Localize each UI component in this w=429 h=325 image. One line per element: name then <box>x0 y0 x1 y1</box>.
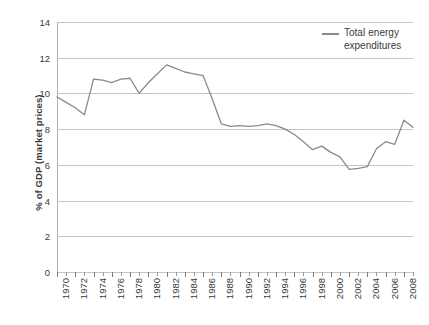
x-tick-mark-1981 <box>157 272 158 276</box>
x-tick-mark-2009 <box>413 272 414 276</box>
x-tick-mark-1998 <box>313 272 314 277</box>
x-tick-mark-1988 <box>221 272 222 277</box>
x-tick-label-2002: 2002 <box>353 278 363 299</box>
x-tick-mark-1989 <box>230 272 231 276</box>
x-tick-label-1982: 1982 <box>171 278 181 299</box>
series-total-energy-expenditures <box>57 22 413 272</box>
x-tick-mark-1973 <box>84 272 85 276</box>
chart-legend: Total energy expenditures <box>322 27 429 52</box>
x-tick-mark-1971 <box>66 272 67 276</box>
x-tick-label-1972: 1972 <box>79 278 89 299</box>
y-tick-label-14: 14 <box>26 17 50 28</box>
energy-expenditure-line-chart: % of GDP (market prices) 14121086420 197… <box>0 0 429 325</box>
x-tick-mark-1986 <box>203 272 204 277</box>
x-tick-mark-1994 <box>276 272 277 277</box>
x-tick-mark-2002 <box>349 272 350 277</box>
x-tick-mark-1984 <box>185 272 186 277</box>
x-tick-label-1992: 1992 <box>262 278 272 299</box>
x-tick-mark-1983 <box>176 272 177 276</box>
x-tick-label-1984: 1984 <box>189 278 199 299</box>
x-tick-mark-2006 <box>386 272 387 277</box>
y-axis-tick-labels: 14121086420 <box>26 0 50 325</box>
x-tick-label-1974: 1974 <box>98 278 108 299</box>
x-tick-mark-1979 <box>139 272 140 276</box>
x-axis-tick-marks <box>57 272 413 277</box>
x-tick-label-1998: 1998 <box>317 278 327 299</box>
plot-area <box>57 22 413 272</box>
x-tick-mark-1987 <box>212 272 213 276</box>
x-tick-mark-1990 <box>240 272 241 277</box>
x-tick-label-2008: 2008 <box>408 278 418 299</box>
x-tick-mark-1978 <box>130 272 131 277</box>
x-tick-mark-1972 <box>75 272 76 277</box>
x-tick-label-1970: 1970 <box>61 278 71 299</box>
x-tick-label-1988: 1988 <box>225 278 235 299</box>
x-tick-label-1986: 1986 <box>207 278 217 299</box>
x-tick-mark-2007 <box>395 272 396 276</box>
x-tick-mark-1974 <box>94 272 95 277</box>
x-tick-mark-1976 <box>112 272 113 277</box>
x-tick-mark-1993 <box>267 272 268 276</box>
x-tick-mark-1992 <box>258 272 259 277</box>
x-tick-mark-1977 <box>121 272 122 276</box>
x-tick-mark-1995 <box>285 272 286 276</box>
x-axis-tick-labels: 1970197219741976197819801982198419861988… <box>57 278 413 324</box>
x-tick-label-1978: 1978 <box>134 278 144 299</box>
x-tick-mark-1980 <box>148 272 149 277</box>
x-tick-mark-2001 <box>340 272 341 276</box>
x-tick-label-2000: 2000 <box>335 278 345 299</box>
legend-label: Total energy expenditures <box>344 27 429 52</box>
x-tick-mark-1982 <box>167 272 168 277</box>
x-tick-mark-2003 <box>358 272 359 276</box>
x-tick-label-1990: 1990 <box>244 278 254 299</box>
x-tick-mark-1991 <box>249 272 250 276</box>
x-tick-mark-1999 <box>322 272 323 276</box>
x-tick-mark-1985 <box>194 272 195 276</box>
legend-line-swatch-icon <box>322 33 339 35</box>
x-tick-label-2006: 2006 <box>390 278 400 299</box>
y-tick-label-4: 4 <box>26 195 50 206</box>
x-tick-label-1996: 1996 <box>298 278 308 299</box>
y-tick-label-2: 2 <box>26 231 50 242</box>
y-tick-label-12: 12 <box>26 52 50 63</box>
x-tick-label-1994: 1994 <box>280 278 290 299</box>
y-tick-label-8: 8 <box>26 124 50 135</box>
x-tick-mark-2008 <box>404 272 405 277</box>
x-tick-mark-2000 <box>331 272 332 277</box>
x-tick-mark-2004 <box>367 272 368 277</box>
y-tick-label-10: 10 <box>26 88 50 99</box>
x-tick-label-2004: 2004 <box>371 278 381 299</box>
x-tick-mark-2005 <box>376 272 377 276</box>
x-tick-mark-1975 <box>103 272 104 276</box>
x-tick-mark-1997 <box>303 272 304 276</box>
x-tick-mark-1996 <box>294 272 295 277</box>
y-tick-label-0: 0 <box>26 267 50 278</box>
x-tick-label-1980: 1980 <box>152 278 162 299</box>
x-tick-label-1976: 1976 <box>116 278 126 299</box>
y-tick-label-6: 6 <box>26 159 50 170</box>
x-tick-mark-1970 <box>57 272 58 277</box>
